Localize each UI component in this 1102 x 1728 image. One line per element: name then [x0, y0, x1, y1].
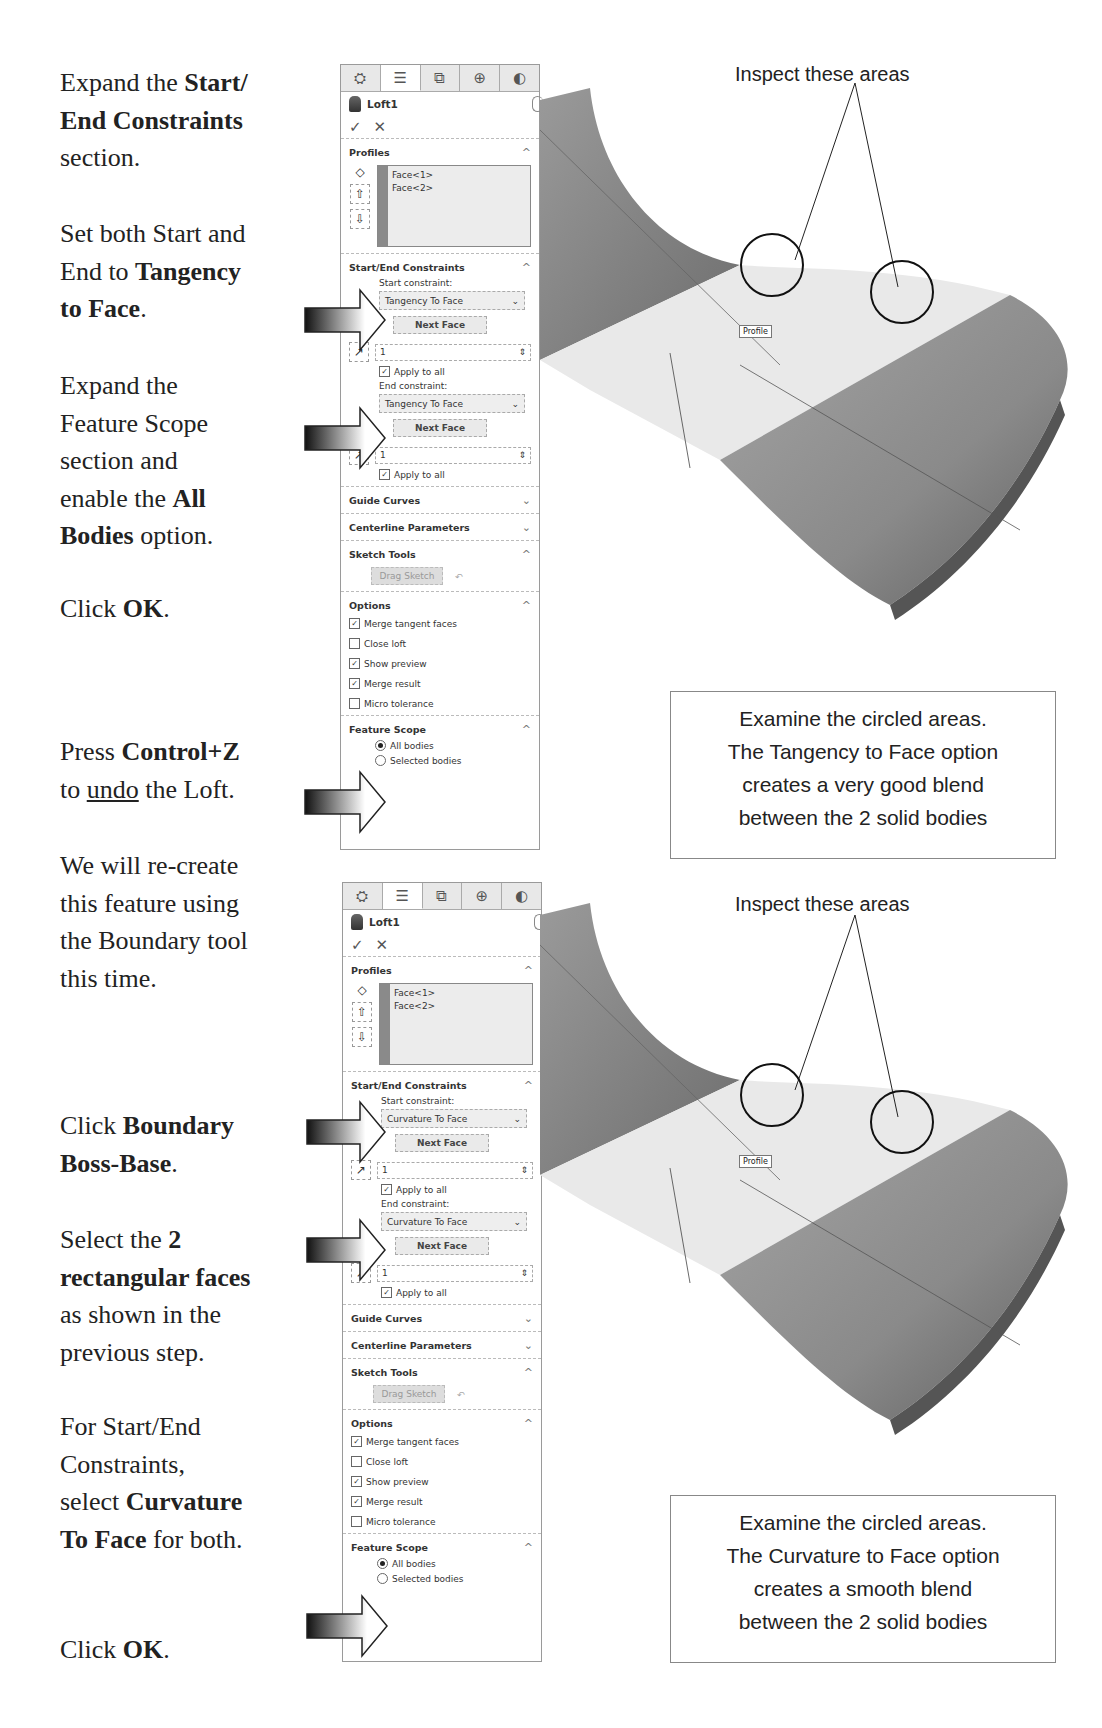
apply-to-all-start[interactable]: ✓Apply to all [381, 1184, 533, 1195]
feature-scope-header[interactable]: Feature Scope [349, 724, 426, 735]
profile-item[interactable]: Face<1> [394, 987, 435, 1000]
close-loft-checkbox[interactable]: Close loft [351, 1456, 533, 1467]
move-up-button[interactable]: ⇧ [352, 1002, 372, 1022]
tab-feature-manager[interactable]: ⛭ [341, 65, 381, 91]
next-face-button[interactable]: Next Face [395, 1134, 489, 1152]
collapse-icon[interactable]: ^ [524, 1366, 533, 1379]
guide-curves-section[interactable]: Guide Curves⌄ [343, 1304, 541, 1331]
end-constraint-select[interactable]: Curvature To Face⌄ [381, 1212, 527, 1231]
tab-configuration-manager[interactable]: ⧉ [423, 883, 463, 909]
apply-to-all-end[interactable]: ✓Apply to all [379, 469, 531, 480]
centerline-header[interactable]: Centerline Parameters [351, 1340, 472, 1351]
tab-display-manager[interactable]: ◐ [502, 883, 541, 909]
tab-display-manager[interactable]: ◐ [500, 65, 539, 91]
merge-result-checkbox[interactable]: ✓Merge result [351, 1496, 533, 1507]
move-up-button[interactable]: ⇧ [350, 184, 370, 204]
move-down-button[interactable]: ⇩ [350, 209, 370, 229]
undo-drag-icon[interactable]: ↶ [455, 571, 463, 582]
merge-tangent-faces-checkbox[interactable]: ✓Merge tangent faces [351, 1436, 533, 1447]
apply-to-all-start[interactable]: ✓Apply to all [379, 366, 531, 377]
centerline-section[interactable]: Centerline Parameters⌄ [341, 513, 539, 540]
collapse-icon[interactable]: ^ [522, 548, 531, 561]
undo-drag-icon[interactable]: ↶ [457, 1389, 465, 1400]
tab-property-manager[interactable]: ☰ [381, 65, 421, 91]
profiles-list[interactable]: Face<1> Face<2> [377, 165, 531, 247]
spinner-icon[interactable]: ⇕ [520, 1165, 528, 1175]
show-preview-checkbox[interactable]: ✓Show preview [351, 1476, 533, 1487]
next-face-button[interactable]: Next Face [393, 316, 487, 334]
collapse-icon[interactable]: ^ [524, 1079, 533, 1092]
start-constraint-select[interactable]: Curvature To Face⌄ [381, 1109, 527, 1128]
end-constraint-select[interactable]: Tangency To Face⌄ [379, 394, 525, 413]
selected-bodies-radio[interactable]: Selected bodies [377, 1573, 533, 1584]
micro-tolerance-checkbox[interactable]: Micro tolerance [349, 698, 531, 709]
collapse-icon[interactable]: ^ [524, 1541, 533, 1554]
tab-dimxpert-manager[interactable]: ⊕ [462, 883, 502, 909]
move-down-button[interactable]: ⇩ [352, 1027, 372, 1047]
close-loft-checkbox[interactable]: Close loft [349, 638, 531, 649]
merge-tangent-faces-checkbox[interactable]: ✓Merge tangent faces [349, 618, 531, 629]
options-header[interactable]: Options [351, 1418, 393, 1429]
direction-arrow-icon[interactable]: ↗ [349, 342, 369, 362]
ok-button[interactable]: ✓ [349, 118, 362, 136]
profile-item[interactable]: Face<1> [392, 169, 433, 182]
cancel-button[interactable]: ✕ [374, 118, 387, 136]
profile-item[interactable]: Face<2> [392, 182, 433, 195]
centerline-section[interactable]: Centerline Parameters⌄ [343, 1331, 541, 1358]
next-face-button[interactable]: Next Face [395, 1237, 489, 1255]
centerline-header[interactable]: Centerline Parameters [349, 522, 470, 533]
sketch-tools-header[interactable]: Sketch Tools [349, 549, 416, 560]
profile-tag: Profile [739, 325, 772, 338]
selected-bodies-radio[interactable]: Selected bodies [375, 755, 531, 766]
sketch-tools-header[interactable]: Sketch Tools [351, 1367, 418, 1378]
feature-scope-header[interactable]: Feature Scope [351, 1542, 428, 1553]
end-tangent-length[interactable]: 1⇕ [377, 1265, 533, 1282]
guide-curves-section[interactable]: Guide Curves⌄ [341, 486, 539, 513]
start-tangent-length[interactable]: 1⇕ [375, 344, 531, 361]
merge-result-checkbox[interactable]: ✓Merge result [349, 678, 531, 689]
micro-tolerance-checkbox[interactable]: Micro tolerance [351, 1516, 533, 1527]
next-face-button[interactable]: Next Face [393, 419, 487, 437]
expand-icon[interactable]: ⌄ [524, 1339, 533, 1352]
constraints-header[interactable]: Start/End Constraints [351, 1080, 467, 1091]
direction-arrow-icon[interactable]: ↗ [351, 1160, 371, 1180]
profiles-header[interactable]: Profiles [351, 965, 392, 976]
expand-icon[interactable]: ⌄ [524, 1312, 533, 1325]
spinner-icon[interactable]: ⇕ [518, 347, 526, 357]
guide-curves-header[interactable]: Guide Curves [349, 495, 420, 506]
start-tangent-length[interactable]: 1⇕ [377, 1162, 533, 1179]
drag-sketch-button[interactable]: Drag Sketch [371, 567, 443, 585]
tab-property-manager[interactable]: ☰ [383, 883, 423, 909]
options-header[interactable]: Options [349, 600, 391, 611]
ok-button[interactable]: ✓ [351, 936, 364, 954]
all-bodies-radio[interactable]: All bodies [377, 1558, 533, 1569]
direction-arrow-icon[interactable]: ↗ [349, 445, 369, 465]
expand-icon[interactable]: ⌄ [522, 494, 531, 507]
cancel-button[interactable]: ✕ [376, 936, 389, 954]
expand-icon[interactable]: ⌄ [522, 521, 531, 534]
collapse-icon[interactable]: ^ [522, 146, 531, 159]
drag-sketch-button[interactable]: Drag Sketch [373, 1385, 445, 1403]
tab-configuration-manager[interactable]: ⧉ [421, 65, 461, 91]
end-tangent-length[interactable]: 1⇕ [375, 447, 531, 464]
all-bodies-radio[interactable]: All bodies [375, 740, 531, 751]
guide-curves-header[interactable]: Guide Curves [351, 1313, 422, 1324]
collapse-icon[interactable]: ^ [522, 261, 531, 274]
property-manager-panel-2: ⛭ ☰ ⧉ ⊕ ◐ Loft1 ✓ ✕ Profiles^ ◇ ⇧ ⇩ Face… [342, 882, 542, 1662]
tab-dimxpert-manager[interactable]: ⊕ [460, 65, 500, 91]
collapse-icon[interactable]: ^ [524, 1417, 533, 1430]
collapse-icon[interactable]: ^ [522, 723, 531, 736]
profile-item[interactable]: Face<2> [394, 1000, 435, 1013]
tab-feature-manager[interactable]: ⛭ [343, 883, 383, 909]
show-preview-checkbox[interactable]: ✓Show preview [349, 658, 531, 669]
spinner-icon[interactable]: ⇕ [518, 450, 526, 460]
collapse-icon[interactable]: ^ [524, 964, 533, 977]
constraints-header[interactable]: Start/End Constraints [349, 262, 465, 273]
direction-arrow-icon[interactable]: ↗ [351, 1263, 371, 1283]
apply-to-all-end[interactable]: ✓Apply to all [381, 1287, 533, 1298]
start-constraint-select[interactable]: Tangency To Face⌄ [379, 291, 525, 310]
collapse-icon[interactable]: ^ [522, 599, 531, 612]
profiles-list[interactable]: Face<1> Face<2> [379, 983, 533, 1065]
spinner-icon[interactable]: ⇕ [520, 1268, 528, 1278]
profiles-header[interactable]: Profiles [349, 147, 390, 158]
